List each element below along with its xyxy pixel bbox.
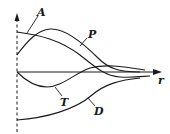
axis-label-r: r xyxy=(158,74,165,87)
leader-t xyxy=(55,87,62,96)
vertical-axis-arrow-icon xyxy=(15,13,20,21)
curve-t xyxy=(17,66,145,87)
label-p: P xyxy=(87,28,97,41)
label-a: A xyxy=(36,6,46,19)
label-d: D xyxy=(93,105,104,118)
diagram: A P T D r xyxy=(0,0,170,134)
curve-p xyxy=(17,29,140,72)
label-t: T xyxy=(60,96,69,109)
